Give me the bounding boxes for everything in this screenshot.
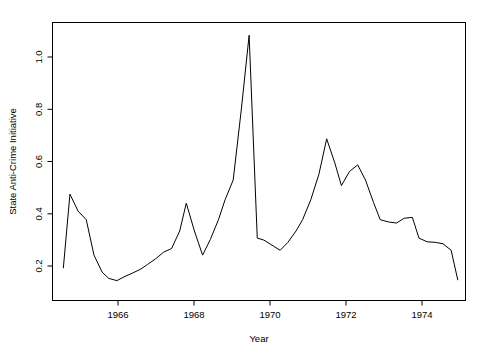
y-tick-label: 0.8 <box>33 103 44 116</box>
x-tick-label: 1966 <box>107 309 128 320</box>
y-axis-title: State Anti-Crime Initiative <box>7 108 18 215</box>
y-tick-label: 1.0 <box>33 50 44 63</box>
x-tick-label: 1974 <box>411 309 432 320</box>
y-tick-label: 0.2 <box>33 259 44 272</box>
y-tick-label: 0.6 <box>33 155 44 168</box>
x-tick-label: 1972 <box>335 309 356 320</box>
x-tick-label: 1970 <box>259 309 280 320</box>
chart-figure: 1966 1968 1970 1972 1974 0.2 0.4 0.6 0.8… <box>0 0 486 356</box>
y-tick-label: 0.4 <box>33 207 44 220</box>
figure-background <box>0 0 486 356</box>
line-chart-canvas: 1966 1968 1970 1972 1974 0.2 0.4 0.6 0.8… <box>0 0 486 356</box>
x-axis-title: Year <box>249 333 268 344</box>
x-tick-label: 1968 <box>183 309 204 320</box>
